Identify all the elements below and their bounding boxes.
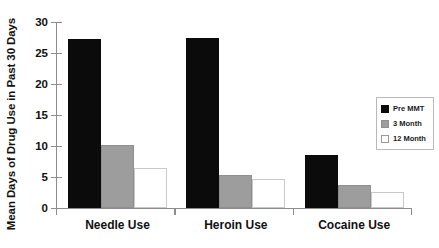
y-axis-title: Mean Days of Drug Use in Past 30 Days [0, 0, 22, 248]
black-swatch-icon [381, 105, 389, 113]
bar [101, 145, 134, 208]
y-axis-tick-label: 25 [22, 47, 48, 59]
x-axis-line [56, 208, 411, 209]
y-axis-tick-label: 0 [22, 202, 48, 214]
y-axis-tick-label: 20 [22, 78, 48, 90]
bar [186, 38, 219, 209]
legend-item-12-month: 12 Month [381, 132, 430, 145]
x-axis-category-label: Needle Use [85, 218, 150, 232]
y-axis-tick-label: 5 [22, 171, 48, 183]
x-axis-tick [411, 208, 412, 215]
bar [338, 185, 371, 208]
bar-chart: Mean Days of Drug Use in Past 30 Days 05… [0, 0, 439, 248]
x-axis-category-label: Heroin Use [204, 218, 267, 232]
bar [68, 39, 101, 208]
bar [134, 168, 167, 208]
x-axis-category-label: Cocaine Use [318, 218, 390, 232]
plot-area [56, 22, 411, 208]
bar [252, 179, 285, 208]
legend-item-pre-mmt: Pre MMT [381, 102, 430, 115]
x-axis-tick [56, 208, 57, 215]
legend-label-3-month: 3 Month [393, 119, 422, 128]
gray-swatch-icon [381, 120, 389, 128]
bar [371, 192, 404, 208]
legend-label-pre-mmt: Pre MMT [393, 104, 424, 113]
x-axis-tick [293, 208, 294, 215]
y-axis-tick-label: 30 [22, 16, 48, 28]
white-swatch-icon [381, 135, 389, 143]
y-axis-tick-label: 10 [22, 140, 48, 152]
y-axis-tick-label: 15 [22, 109, 48, 121]
legend: Pre MMT 3 Month 12 Month [376, 97, 434, 150]
bar [305, 155, 338, 208]
bar [219, 175, 252, 208]
x-axis-tick [174, 208, 175, 215]
legend-item-3-month: 3 Month [381, 117, 430, 130]
legend-label-12-month: 12 Month [393, 134, 426, 143]
